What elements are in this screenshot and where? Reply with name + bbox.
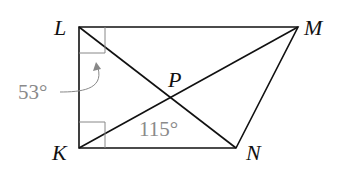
- angle-label-115: 115°: [139, 117, 178, 141]
- point-label-p: P: [167, 67, 181, 92]
- point-label-m: M: [303, 15, 324, 40]
- diagonal-km: [79, 27, 298, 148]
- point-label-k: K: [51, 140, 68, 165]
- angle-label-53: 53°: [18, 80, 47, 104]
- geometry-diagram: L M K N P 53° 115°: [0, 0, 359, 171]
- arrowhead-icon: [93, 62, 101, 71]
- point-label-l: L: [53, 15, 66, 40]
- point-label-n: N: [245, 140, 262, 165]
